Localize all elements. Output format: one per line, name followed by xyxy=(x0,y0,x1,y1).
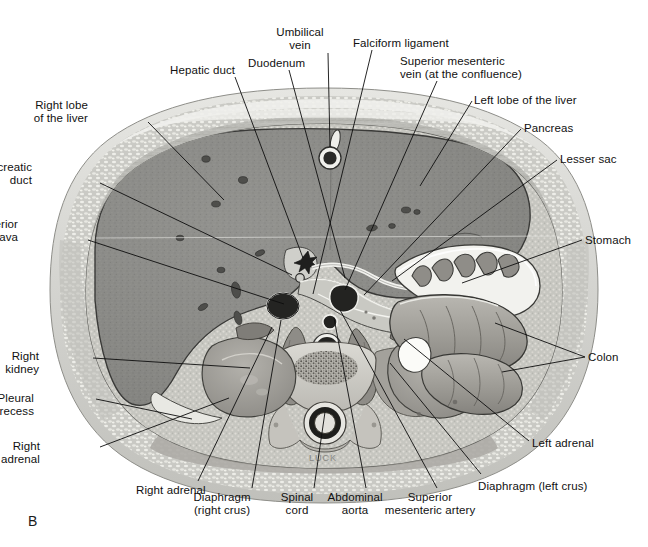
abdominal-contents: LUCK xyxy=(86,120,566,470)
svg-text:LUCK: LUCK xyxy=(309,453,337,463)
label-umbilical-vein: Umbilical vein xyxy=(276,26,324,52)
label-superior-mesenteric-artery: Superior mesenteric artery xyxy=(385,491,476,517)
label-falciform-ligament: Falciform ligament xyxy=(353,37,449,50)
anatomy-figure: LUCK Hepatic ductDuodenumUmbilical veinF… xyxy=(0,0,648,547)
label-diaphragm-left-crus: Diaphragm (left crus) xyxy=(478,480,587,493)
label-duodenum: Duodenum xyxy=(248,57,305,70)
label-left-adrenal: Left adrenal xyxy=(532,437,594,450)
label-left-lobe-of-liver: Left lobe of the liver xyxy=(474,94,577,107)
label-right-lobe-of-liver: Right lobe of the liver xyxy=(34,99,88,125)
label-stomach: Stomach xyxy=(585,234,631,247)
plate-letter: B xyxy=(28,513,37,529)
label-abdominal-aorta: Abdominal aorta xyxy=(327,491,382,517)
label-pancreas: Pancreas xyxy=(524,122,573,135)
label-colon-upper: Colon xyxy=(588,351,619,364)
label-lesser-sac: Lesser sac xyxy=(560,153,617,166)
artist-signature: LUCK xyxy=(309,453,337,463)
label-right-adrenal: Right adrenal xyxy=(1,440,40,466)
label-inferior-vena-cava: Inferior vena cava xyxy=(0,218,18,244)
label-right-adrenal-lower: Right adrenal xyxy=(136,484,206,497)
label-hepatic-duct: Hepatic duct xyxy=(170,64,235,77)
cross-section-illustration: LUCK xyxy=(0,0,648,547)
label-superior-mesenteric-vein: Superior mesenteric vein (at the conflue… xyxy=(400,55,522,81)
label-right-kidney: Right kidney xyxy=(5,350,39,376)
label-pancreatic-duct: Pancreatic duct xyxy=(0,161,32,187)
label-spinal-cord: Spinal cord xyxy=(281,491,314,517)
label-pleural-recess: Pleural recess xyxy=(0,392,34,418)
right-kidney xyxy=(202,337,296,417)
